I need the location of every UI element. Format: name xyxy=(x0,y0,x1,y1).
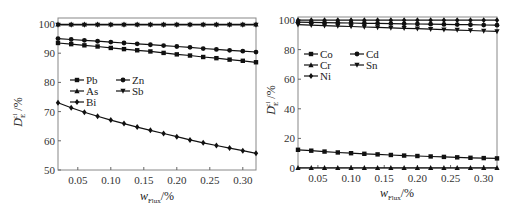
legend-label: Ni xyxy=(320,70,331,82)
x-tick-label: 0.20 xyxy=(167,174,187,186)
pb-marker-icon xyxy=(214,56,218,60)
pb-marker-icon xyxy=(56,41,60,45)
zn-marker-icon xyxy=(254,50,259,55)
x-tick-label: 0.25 xyxy=(200,174,220,186)
y-tick-label: 90 xyxy=(44,47,56,59)
pb-marker-icon xyxy=(95,44,99,48)
co-marker-icon xyxy=(389,153,393,157)
y-tick-label: 60 xyxy=(44,135,56,147)
series-line xyxy=(58,103,256,154)
y-tick-label: 100 xyxy=(39,18,56,30)
ni-marker-icon xyxy=(442,17,446,23)
zn-marker-icon xyxy=(82,38,87,43)
y-tick-label: 80 xyxy=(44,76,56,88)
x-tick-label: 0.15 xyxy=(375,172,395,184)
ni-marker-icon xyxy=(428,17,432,23)
bi-marker-icon xyxy=(75,99,79,105)
co-marker-icon xyxy=(309,52,313,56)
zn-marker-icon xyxy=(240,49,245,54)
co-marker-icon xyxy=(309,148,313,152)
series-line xyxy=(298,25,497,32)
zn-marker-icon xyxy=(108,40,113,45)
zn-marker-icon xyxy=(121,78,126,83)
pb-marker-icon xyxy=(75,78,79,82)
right-y-axis-label: DEcl /% xyxy=(264,85,280,115)
co-marker-icon xyxy=(336,150,340,154)
y-tick-label: 60 xyxy=(284,73,296,85)
cd-marker-icon xyxy=(481,23,486,28)
x-tick-label: 0.25 xyxy=(441,172,461,184)
ni-marker-icon xyxy=(495,17,499,23)
co-marker-icon xyxy=(455,155,459,159)
co-marker-icon xyxy=(322,149,326,153)
right-x-axis-label: wFlux/% xyxy=(380,186,414,202)
left-chart-panel: 50607080901000.050.100.150.200.250.30PbZ… xyxy=(39,18,259,186)
pb-marker-icon xyxy=(69,42,73,46)
figure: 50607080901000.050.100.150.200.250.30PbZ… xyxy=(0,0,527,213)
bi-marker-icon xyxy=(188,137,192,143)
pb-marker-icon xyxy=(241,59,245,63)
legend-item-sb: Sb xyxy=(116,85,144,97)
zn-marker-icon xyxy=(227,48,232,53)
x-tick-label: 0.05 xyxy=(308,172,328,184)
left-x-axis-label: wFlux/% xyxy=(140,189,174,205)
pb-marker-icon xyxy=(82,43,86,47)
zn-marker-icon xyxy=(69,37,74,42)
series-sb xyxy=(55,23,258,28)
series-co xyxy=(296,148,499,161)
pb-marker-icon xyxy=(148,49,152,53)
co-marker-icon xyxy=(349,151,353,155)
x-tick-label: 0.20 xyxy=(408,172,428,184)
co-marker-icon xyxy=(402,153,406,157)
right-chart-panel: 0204060801000.050.100.150.200.250.30CoCd… xyxy=(279,14,500,184)
bi-marker-icon xyxy=(82,109,86,115)
bi-marker-icon xyxy=(135,124,139,130)
series-cr xyxy=(295,165,499,170)
zn-marker-icon xyxy=(214,47,219,52)
pb-marker-icon xyxy=(109,46,113,50)
cd-marker-icon xyxy=(355,52,360,57)
legend: CoCdCrSnNi xyxy=(304,48,379,82)
bi-marker-icon xyxy=(227,145,231,151)
bi-marker-icon xyxy=(69,105,73,111)
ni-marker-icon xyxy=(468,17,472,23)
pb-marker-icon xyxy=(188,53,192,57)
x-tick-label: 0.30 xyxy=(474,172,494,184)
ni-marker-icon xyxy=(482,17,486,23)
series-bi xyxy=(56,100,258,157)
y-tick-label: 80 xyxy=(284,44,296,56)
plot-frame xyxy=(298,17,497,168)
y-tick-label: 20 xyxy=(284,132,296,144)
bi-marker-icon xyxy=(56,100,60,106)
pb-marker-icon xyxy=(122,47,126,51)
y-tick-label: 50 xyxy=(44,164,56,176)
zn-marker-icon xyxy=(95,39,100,44)
x-tick-label: 0.15 xyxy=(134,174,154,186)
co-marker-icon xyxy=(428,154,432,158)
bi-marker-icon xyxy=(201,140,205,146)
bi-marker-icon xyxy=(254,150,258,156)
zn-marker-icon xyxy=(161,43,166,48)
zn-marker-icon xyxy=(148,42,153,47)
co-marker-icon xyxy=(495,156,499,160)
bi-marker-icon xyxy=(214,142,218,148)
legend-item-ni: Ni xyxy=(304,70,331,82)
co-marker-icon xyxy=(415,154,419,158)
series-line xyxy=(58,43,256,62)
co-marker-icon xyxy=(362,152,366,156)
zn-marker-icon xyxy=(135,41,140,46)
pb-marker-icon xyxy=(161,51,165,55)
x-tick-label: 0.05 xyxy=(68,174,88,186)
co-marker-icon xyxy=(482,156,486,160)
legend-label: Sb xyxy=(132,85,144,97)
zn-marker-icon xyxy=(201,46,206,51)
co-marker-icon xyxy=(468,156,472,160)
pb-marker-icon xyxy=(175,52,179,56)
pb-marker-icon xyxy=(201,55,205,59)
y-tick-label: 100 xyxy=(279,14,296,26)
y-tick-label: 40 xyxy=(284,103,296,115)
legend: PbZnAsSbBi xyxy=(70,74,145,108)
zn-marker-icon xyxy=(56,36,61,41)
co-marker-icon xyxy=(442,155,446,159)
zn-marker-icon xyxy=(188,45,193,50)
